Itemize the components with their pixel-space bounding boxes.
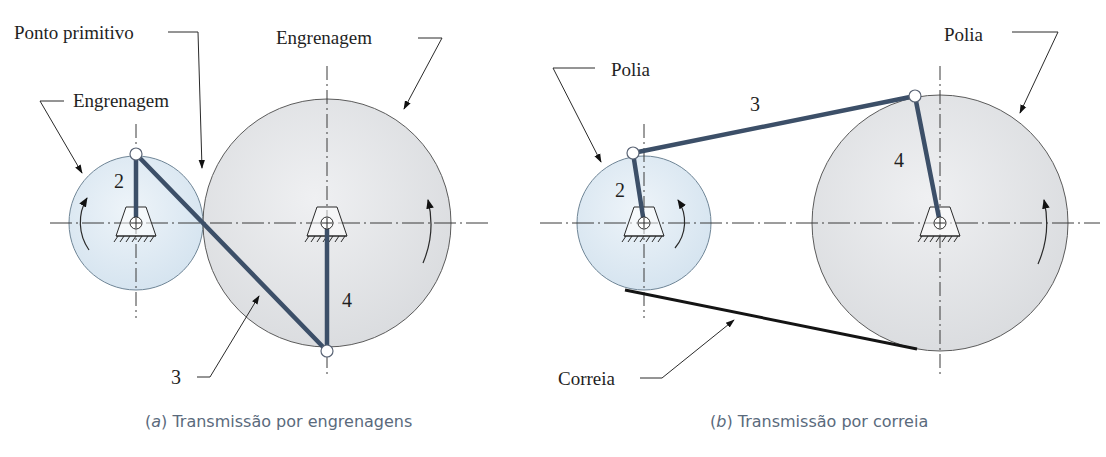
- joint-a-top: [130, 148, 142, 160]
- label-link-2-a: 2: [114, 170, 124, 192]
- joint-a-bottom: [321, 345, 333, 357]
- leader-engrenagem-small: [40, 101, 82, 173]
- caption-a: (a) Transmissão por engrenagens: [145, 412, 412, 431]
- pivot-icon-large-pulley: [934, 217, 946, 229]
- label-link-3-a: 3: [171, 366, 181, 388]
- label-polia-large: Polia: [944, 24, 984, 45]
- joint-b-right: [909, 90, 921, 102]
- label-link-2-b: 2: [615, 179, 625, 201]
- label-link-3-b: 3: [750, 93, 760, 115]
- leader-correia: [640, 320, 734, 378]
- label-ponto-primitivo: Ponto primitivo: [14, 22, 134, 43]
- leader-polia-large: [1012, 32, 1058, 113]
- panel-a-gear-transmission: Ponto primitivo Engrenagem Engrenagem 2 …: [14, 22, 492, 431]
- label-correia: Correia: [558, 368, 616, 389]
- label-polia-small: Polia: [611, 59, 651, 80]
- pivot-icon-large-gear: [321, 217, 333, 229]
- label-engrenagem-large: Engrenagem: [276, 27, 372, 48]
- diagram-canvas: Ponto primitivo Engrenagem Engrenagem 2 …: [0, 0, 1106, 457]
- caption-b: (b) Transmissão por correia: [710, 412, 928, 431]
- label-link-4-b: 4: [894, 149, 904, 171]
- leader-ponto-primitivo: [168, 32, 202, 168]
- label-engrenagem-small: Engrenagem: [73, 90, 169, 111]
- panel-b-belt-transmission: Polia Polia Correia 2 3 4 (b) Transmissã…: [540, 24, 1100, 431]
- pivot-icon-small-pulley: [638, 217, 650, 229]
- joint-b-left: [627, 147, 639, 159]
- label-link-4-a: 4: [342, 289, 352, 311]
- pivot-icon-small-gear: [130, 217, 142, 229]
- leader-engrenagem-large: [404, 38, 442, 109]
- leader-polia-small: [553, 68, 601, 162]
